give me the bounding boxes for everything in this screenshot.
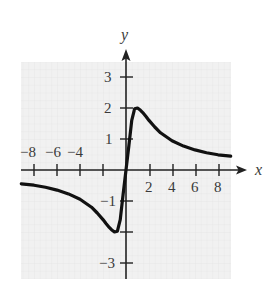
x-tick-label: −8 bbox=[20, 144, 36, 160]
y-tick-label: 2 bbox=[104, 100, 112, 116]
x-tick-label: −6 bbox=[45, 144, 61, 160]
chart-canvas: x y −8 −6 −4 2 4 6 8 3 2 1 −1 −3 bbox=[0, 0, 271, 293]
y-tick-label: −1 bbox=[100, 193, 116, 209]
x-tick-label: 2 bbox=[145, 179, 153, 195]
y-axis-label: y bbox=[119, 26, 129, 44]
y-tick-label: 1 bbox=[105, 131, 113, 147]
x-tick-label: 8 bbox=[214, 179, 222, 195]
x-tick-label: 4 bbox=[168, 179, 176, 195]
x-tick-label: −4 bbox=[67, 144, 83, 160]
y-tick-label: 3 bbox=[104, 69, 112, 85]
x-tick-label: 6 bbox=[191, 179, 199, 195]
x-axis-label: x bbox=[254, 161, 262, 178]
y-tick-label: −3 bbox=[99, 255, 115, 271]
